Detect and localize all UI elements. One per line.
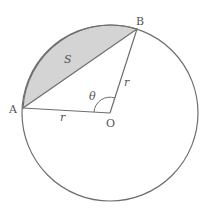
radius-oa — [23, 108, 110, 113]
label-r-oa: r — [60, 111, 66, 124]
shaded-segment-s — [23, 25, 137, 108]
label-o: O — [106, 117, 115, 130]
label-s: S — [64, 53, 72, 66]
angle-theta-arc — [94, 97, 115, 112]
label-a: A — [8, 103, 18, 116]
label-b: B — [136, 15, 144, 28]
label-r-ob: r — [124, 76, 130, 89]
circle-segment-diagram: A B O S θ r r — [0, 0, 202, 209]
label-theta: θ — [89, 90, 96, 103]
